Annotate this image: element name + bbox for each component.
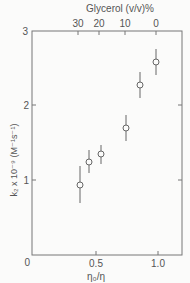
top-tick-0: 0 xyxy=(153,18,159,29)
top-tick-20: 20 xyxy=(93,18,105,29)
top-tick-30: 30 xyxy=(72,18,84,29)
y-axis-label: k₂ x 10⁻⁹ (M⁻¹s⁻¹) xyxy=(9,124,19,197)
x-ticks: 0.5 1.0 xyxy=(89,251,165,269)
y-tick-2: 2 xyxy=(23,100,29,111)
data-point xyxy=(123,115,129,141)
y-tick-0: 0 xyxy=(24,257,30,268)
data-point xyxy=(137,72,143,98)
x-tick-10: 1.0 xyxy=(151,258,165,269)
y-tick-1: 1 xyxy=(23,175,29,186)
chart: Glycerol (v/v)% 30 20 10 0 3 2 1 0 0.5 1… xyxy=(0,0,190,283)
data-point xyxy=(77,166,83,203)
x-axis-label: η₀/η xyxy=(87,271,105,282)
plot-frame xyxy=(32,31,182,255)
data-series xyxy=(77,49,159,203)
top-axis-label: Glycerol (v/v)% xyxy=(86,3,154,14)
y-tick-3: 3 xyxy=(22,26,28,37)
top-ticks: 30 20 10 0 xyxy=(72,18,159,35)
data-point xyxy=(98,145,104,164)
x-tick-05: 0.5 xyxy=(89,258,103,269)
top-tick-10: 10 xyxy=(119,18,131,29)
data-point xyxy=(86,150,92,173)
data-point xyxy=(153,49,159,75)
